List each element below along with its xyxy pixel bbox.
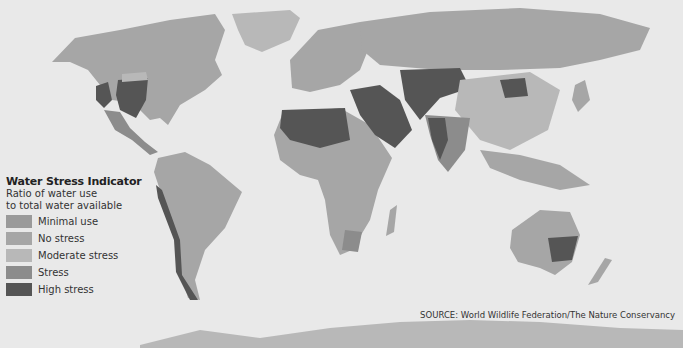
legend-swatch — [6, 249, 32, 262]
legend: Water Stress Indicator Ratio of water us… — [6, 175, 141, 297]
source-credit: SOURCE: World Wildlife Federation/The Na… — [420, 310, 675, 320]
legend-item-no-stress: No stress — [6, 230, 141, 246]
legend-label: Stress — [38, 267, 69, 278]
southeast-asia-region — [480, 150, 590, 190]
south-america-region — [154, 152, 242, 300]
legend-item-high-stress: High stress — [6, 281, 141, 297]
legend-label: Moderate stress — [38, 250, 118, 261]
legend-label: High stress — [38, 284, 94, 295]
legend-label: Minimal use — [38, 216, 98, 227]
japan-region — [572, 80, 590, 112]
europe-region — [290, 22, 372, 92]
madagascar-region — [386, 205, 397, 236]
legend-swatch — [6, 283, 32, 296]
legend-subtitle-line2: to total water available — [6, 200, 141, 212]
legend-subtitle-line1: Ratio of water use — [6, 188, 141, 200]
russia-region — [360, 8, 650, 70]
legend-item-moderate-stress: Moderate stress — [6, 247, 141, 263]
greenland-region — [232, 10, 300, 52]
legend-swatch — [6, 266, 32, 279]
legend-item-stress: Stress — [6, 264, 141, 280]
australia-east-high-stress — [548, 236, 578, 262]
antarctica-region — [140, 320, 683, 348]
new-zealand-region — [588, 258, 612, 285]
legend-title: Water Stress Indicator — [6, 175, 141, 188]
legend-label: No stress — [38, 233, 84, 244]
southern-africa-stress — [342, 230, 362, 252]
legend-swatch — [6, 215, 32, 228]
china-north-high-stress — [500, 78, 528, 98]
legend-swatch — [6, 232, 32, 245]
legend-item-minimal-use: Minimal use — [6, 213, 141, 229]
